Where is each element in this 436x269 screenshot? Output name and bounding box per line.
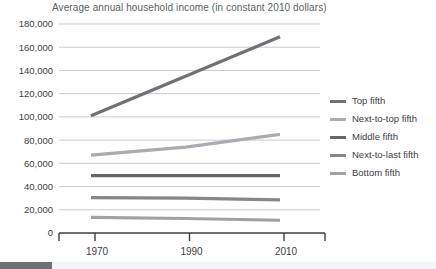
legend-item-next-to-top-fifth[interactable]: Next-to-top fifth [330,110,436,128]
legend-swatch-next-to-last-fifth [330,154,346,157]
chart-legend: Top fifth Next-to-top fifth Middle fifth… [330,92,436,182]
x-axis-tick-labels: 197019902010 [86,246,298,257]
legend-swatch-top-fifth [330,100,346,103]
x-axis-tick-marks [59,233,325,241]
series-line-3 [91,198,280,200]
income-line-chart: Average annual household income (in cons… [0,0,436,269]
gridlines [59,24,320,210]
legend-label-middle-fifth: Middle fifth [352,132,398,142]
legend-item-middle-fifth[interactable]: Middle fifth [330,128,436,146]
legend-label-bottom-fifth: Bottom fifth [352,168,400,178]
legend-label-next-to-top-fifth: Next-to-top fifth [352,114,417,124]
svg-text:2010: 2010 [275,246,298,257]
y-axis-tick-labels: 020,00040,00060,00080,000100,000120,0001… [19,18,53,238]
legend-label-next-to-last-fifth: Next-to-last fifth [352,150,419,160]
legend-label-top-fifth: Top fifth [352,96,385,106]
svg-text:80,000: 80,000 [24,135,53,146]
legend-item-bottom-fifth[interactable]: Bottom fifth [330,164,436,182]
svg-text:1970: 1970 [86,246,109,257]
svg-text:160,000: 160,000 [19,42,53,53]
svg-text:120,000: 120,000 [19,88,53,99]
legend-item-top-fifth[interactable]: Top fifth [330,92,436,110]
bottom-strip [52,262,436,269]
svg-text:180,000: 180,000 [19,18,53,29]
svg-text:100,000: 100,000 [19,111,53,122]
legend-item-next-to-last-fifth[interactable]: Next-to-last fifth [330,146,436,164]
series-line-1 [91,134,280,155]
series-line-0 [91,37,280,116]
bottom-progress-bar [0,262,52,269]
series-line-4 [91,217,280,220]
svg-text:0: 0 [48,227,53,238]
legend-swatch-next-to-top-fifth [330,118,346,121]
svg-text:60,000: 60,000 [24,158,53,169]
legend-swatch-middle-fifth [330,136,346,139]
data-series-lines [91,37,280,220]
svg-text:140,000: 140,000 [19,65,53,76]
svg-text:20,000: 20,000 [24,204,53,215]
legend-swatch-bottom-fifth [330,172,346,175]
svg-text:40,000: 40,000 [24,181,53,192]
svg-text:1990: 1990 [180,246,203,257]
